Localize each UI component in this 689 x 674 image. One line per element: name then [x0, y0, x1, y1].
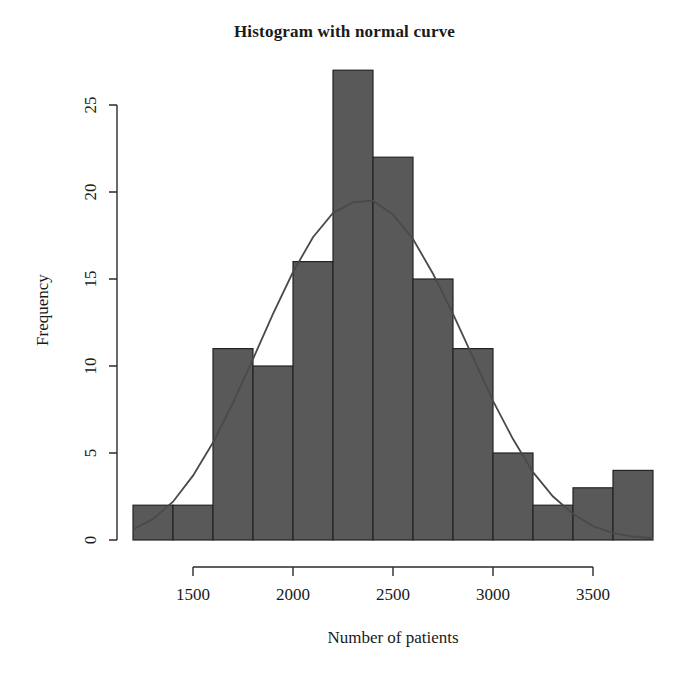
y-axis-title: Frequency — [33, 274, 52, 346]
y-tick-label: 5 — [81, 449, 100, 458]
chart-page: Histogram with normal curve 0510152025 1… — [0, 0, 689, 674]
x-axis-title: Number of patients — [327, 628, 458, 647]
histogram-bar — [413, 279, 453, 540]
x-tick-label: 1500 — [176, 585, 210, 604]
x-tick-label: 3500 — [576, 585, 610, 604]
histogram-bar — [493, 453, 533, 540]
histogram-bar — [573, 488, 613, 540]
histogram-bar — [333, 70, 373, 540]
histogram-bar — [213, 349, 253, 540]
histogram-bar — [453, 349, 493, 540]
x-tick-label: 2000 — [276, 585, 310, 604]
x-tick-labels: 15002000250030003500 — [176, 585, 610, 604]
y-tick-labels: 0510152025 — [81, 97, 100, 545]
x-axis-line — [193, 567, 593, 576]
y-tick-label: 25 — [81, 97, 100, 114]
histogram-bars — [133, 70, 653, 540]
histogram-bar — [253, 366, 293, 540]
histogram-bar — [293, 262, 333, 540]
histogram-bar — [533, 505, 573, 540]
x-tick-label: 2500 — [376, 585, 410, 604]
y-tick-label: 15 — [81, 271, 100, 288]
x-tick-label: 3000 — [476, 585, 510, 604]
histogram-bar — [613, 470, 653, 540]
y-axis-line — [109, 105, 117, 540]
histogram-bar — [133, 505, 173, 540]
y-tick-label: 10 — [81, 358, 100, 375]
y-tick-label: 20 — [81, 184, 100, 201]
histogram-plot: 0510152025 15002000250030003500 Frequenc… — [0, 0, 689, 674]
histogram-bar — [173, 505, 213, 540]
y-tick-label: 0 — [81, 536, 100, 545]
